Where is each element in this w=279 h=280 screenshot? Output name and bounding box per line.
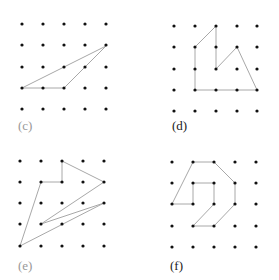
grid-dot	[81, 201, 84, 204]
polygon-d	[195, 26, 257, 90]
grid-dot	[193, 67, 196, 70]
grid-dot	[18, 180, 21, 183]
grid-dot	[20, 65, 23, 68]
grid-dot	[18, 244, 21, 247]
grid-dot	[212, 202, 215, 205]
grid-dot	[60, 222, 63, 225]
grid-dot	[235, 109, 238, 112]
grid-dot	[170, 245, 173, 248]
grid-dot	[254, 202, 257, 205]
grid-dot	[62, 43, 65, 46]
dot-grid-c	[20, 22, 107, 110]
grid-dot	[39, 201, 42, 204]
grid-dot	[235, 88, 238, 91]
grid-dot	[18, 159, 21, 162]
panel-e: (e)	[18, 159, 106, 273]
grid-dot	[214, 88, 217, 91]
grid-dot	[191, 224, 194, 227]
grid-dot	[41, 65, 44, 68]
grid-dot	[20, 22, 23, 25]
grid-dot	[212, 224, 215, 227]
grid-dot	[41, 86, 44, 89]
grid-dot	[214, 45, 217, 48]
grid-dot	[212, 181, 215, 184]
grid-dot	[39, 244, 42, 247]
grid-dot	[20, 43, 23, 46]
grid-dot	[193, 88, 196, 91]
grid-dot	[233, 202, 236, 205]
grid-dot	[83, 86, 86, 89]
grid-dot	[254, 224, 257, 227]
panel-label-f: (f)	[170, 258, 183, 273]
grid-dot	[104, 86, 107, 89]
grid-dot	[214, 109, 217, 112]
grid-dot	[102, 180, 105, 183]
grid-dot	[81, 180, 84, 183]
grid-dot	[41, 43, 44, 46]
grid-dot	[102, 201, 105, 204]
grid-dot	[39, 180, 42, 183]
grid-dot	[62, 22, 65, 25]
grid-dot	[233, 181, 236, 184]
grid-dot	[193, 109, 196, 112]
grid-dot	[254, 160, 257, 163]
grid-dot	[172, 24, 175, 27]
grid-dot	[104, 43, 107, 46]
panel-d: (d)	[172, 24, 259, 133]
grid-dot	[20, 86, 23, 89]
panel-label-c: (c)	[18, 118, 32, 133]
grid-dot	[62, 65, 65, 68]
grid-dot	[39, 159, 42, 162]
grid-dot	[233, 224, 236, 227]
grid-dot	[81, 159, 84, 162]
panel-f: (f)	[170, 160, 258, 273]
grid-dot	[41, 107, 44, 110]
panel-label-d: (d)	[172, 118, 187, 133]
grid-dot	[60, 180, 63, 183]
grid-dot	[233, 160, 236, 163]
grid-dot	[62, 107, 65, 110]
grid-dot	[214, 24, 217, 27]
grid-dot	[214, 67, 217, 70]
grid-dot	[41, 22, 44, 25]
grid-dot	[254, 181, 257, 184]
grid-dot	[235, 45, 238, 48]
grid-dot	[104, 107, 107, 110]
grid-dot	[255, 109, 258, 112]
panel-label-e: (e)	[18, 258, 32, 273]
grid-dot	[102, 159, 105, 162]
grid-dot	[170, 160, 173, 163]
dot-grid-polygon-figure: (c) (d) (e) (f)	[0, 0, 279, 280]
grid-dot	[83, 65, 86, 68]
grid-dot	[212, 160, 215, 163]
grid-dot	[104, 22, 107, 25]
grid-dot	[235, 24, 238, 27]
grid-dot	[83, 22, 86, 25]
grid-dot	[18, 201, 21, 204]
grid-dot	[18, 222, 21, 225]
grid-dot	[191, 245, 194, 248]
grid-dot	[39, 222, 42, 225]
grid-dot	[81, 222, 84, 225]
grid-dot	[170, 202, 173, 205]
grid-dot	[60, 159, 63, 162]
grid-dot	[172, 67, 175, 70]
grid-dot	[255, 24, 258, 27]
grid-dot	[172, 109, 175, 112]
grid-dot	[60, 201, 63, 204]
grid-dot	[191, 160, 194, 163]
grid-dot	[255, 88, 258, 91]
grid-dot	[102, 244, 105, 247]
grid-dot	[191, 202, 194, 205]
grid-dot	[170, 181, 173, 184]
grid-dot	[255, 67, 258, 70]
grid-dot	[193, 45, 196, 48]
grid-dot	[233, 245, 236, 248]
grid-dot	[235, 67, 238, 70]
grid-dot	[193, 24, 196, 27]
grid-dot	[102, 222, 105, 225]
polygon-f	[172, 162, 235, 226]
grid-dot	[104, 65, 107, 68]
grid-dot	[172, 88, 175, 91]
grid-dot	[20, 107, 23, 110]
